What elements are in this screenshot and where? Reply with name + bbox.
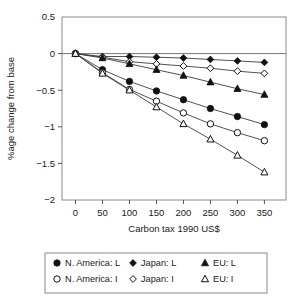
open-triangle-marker — [234, 152, 241, 159]
y-axis-title: %age change from base — [5, 57, 16, 160]
x-tick-label: 150 — [149, 207, 165, 218]
x-tick-label: 250 — [203, 207, 219, 218]
filled-circle-marker — [126, 78, 132, 84]
filled-circle-marker — [54, 260, 60, 266]
open-triangle-marker — [207, 135, 214, 142]
x-axis-title: Carbon tax 1990 US$ — [128, 223, 220, 234]
open-circle-marker — [234, 129, 240, 135]
open-diamond-marker — [180, 63, 187, 70]
legend-item-label: N. America: L — [65, 258, 120, 268]
filled-circle-marker — [180, 97, 186, 103]
filled-circle-marker — [261, 121, 267, 127]
filled-diamond-marker — [261, 59, 268, 66]
legend-item-label: EU: I — [213, 274, 233, 284]
filled-circle-marker — [234, 113, 240, 119]
x-tick-label: 350 — [256, 207, 272, 218]
open-diamond-marker — [234, 68, 241, 75]
open-diamond-marker — [207, 65, 214, 72]
open-circle-marker — [207, 121, 213, 127]
legend-item-label: Japan: I — [141, 274, 174, 284]
x-tick-label: 0 — [73, 207, 78, 218]
legend-item-label: Japan: L — [141, 258, 176, 268]
filled-diamond-marker — [207, 56, 214, 63]
y-tick-label: 0.5 — [42, 11, 55, 22]
open-circle-marker — [180, 110, 186, 116]
y-tick-label: −2 — [44, 194, 55, 205]
open-triangle-marker — [180, 120, 187, 127]
x-tick-label: 200 — [176, 207, 192, 218]
y-tick-label: −1.5 — [36, 158, 55, 169]
filled-diamond-marker — [234, 58, 241, 65]
filled-diamond-marker — [180, 55, 187, 62]
open-triangle-marker — [153, 103, 160, 110]
open-circle-marker — [261, 138, 267, 144]
open-diamond-marker — [261, 70, 268, 77]
open-circle-marker — [54, 276, 60, 282]
filled-circle-marker — [153, 88, 159, 94]
filled-circle-marker — [207, 105, 213, 111]
chart-legend: N. America: LJapan: LEU: LN. America: IJ… — [45, 253, 267, 293]
carbon-tax-line-chart: 0.50−0.5−1−1.5−2050100150200250300350Car… — [0, 0, 296, 300]
x-tick-label: 300 — [229, 207, 245, 218]
series-n-america-i — [72, 50, 267, 144]
filled-diamond-marker — [153, 54, 160, 61]
legend-item-label: N. America: I — [65, 274, 118, 284]
x-tick-label: 100 — [122, 207, 138, 218]
y-tick-label: 0 — [50, 48, 55, 59]
y-tick-label: −0.5 — [36, 85, 55, 96]
y-tick-label: −1 — [44, 121, 55, 132]
open-triangle-marker — [261, 168, 268, 175]
chart-container: 0.50−0.5−1−1.5−2050100150200250300350Car… — [0, 0, 296, 300]
legend-item-label: EU: L — [213, 258, 236, 268]
x-tick-label: 50 — [97, 207, 108, 218]
